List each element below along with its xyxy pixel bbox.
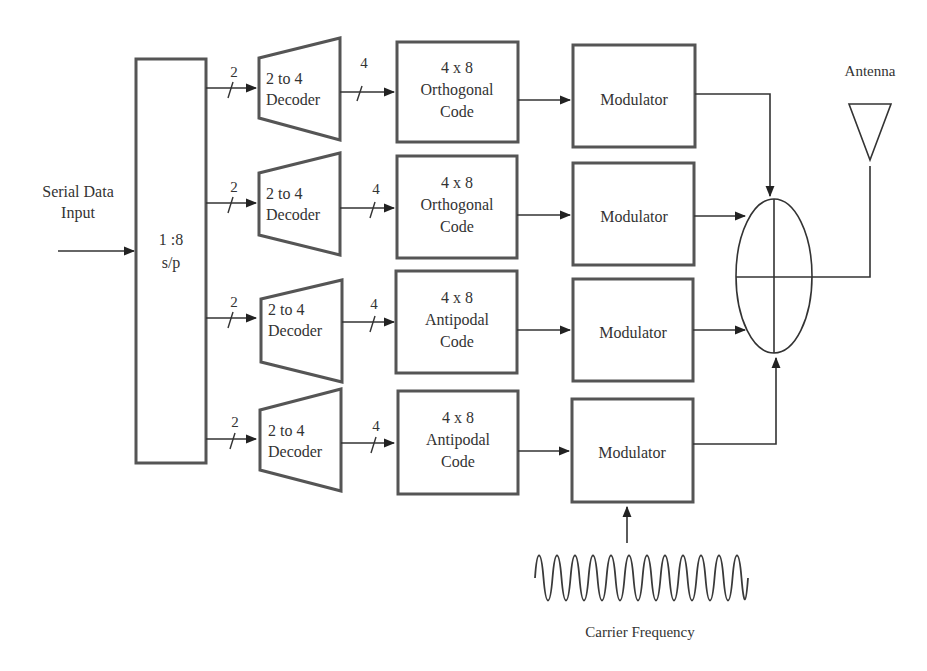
serial-data-input: Serial Data Input [42,183,134,251]
bus-width-out: 4 [372,418,380,434]
antenna-label: Antenna [845,63,896,79]
decoder-label-line1: 2 to 4 [266,70,302,87]
bus-width-in: 2 [230,294,238,310]
modulator-label: Modulator [598,444,666,461]
decoder-block [259,38,340,140]
bus-width-out: 4 [372,181,380,197]
antenna-icon [849,104,891,160]
summing-junction-icon [736,199,812,353]
decoder-label-line1: 2 to 4 [266,185,302,202]
decoder-label-line2: Decoder [268,443,323,460]
bus-width-in: 2 [230,64,238,80]
modulator-label: Modulator [599,324,667,341]
sp-label-line2: s/p [162,254,181,272]
code-label-line2: Antipodal [426,431,491,449]
code-label-line1: 4 x 8 [441,59,473,76]
bus-width-in: 2 [231,414,239,430]
carrier-label: Carrier Frequency [585,624,695,640]
bus-slash-icon [371,437,376,453]
combiner-to-antenna-line [812,166,870,277]
code-label-line1: 4 x 8 [441,174,473,191]
channel-row-2: 2 2 to 4 Decoder 4 4 x 8 Orthogonal Code… [206,153,745,265]
block-diagram: Serial Data Input 1 :8 s/p 2 2 to 4 Deco… [0,0,927,671]
bus-slash-icon [228,197,233,213]
code-label-line3: Code [440,103,474,120]
input-label-line2: Input [61,204,95,222]
code-label-line3: Code [440,218,474,235]
bus-slash-icon [357,86,362,101]
code-label-line1: 4 x 8 [441,289,473,306]
bus-width-out: 4 [370,296,378,312]
input-label-line1: Serial Data [42,183,114,200]
antenna: Antenna [812,63,896,277]
sine-wave-icon [535,556,748,601]
bus-slash-icon [370,202,375,218]
bus-slash-icon [228,82,233,98]
channel-row-3: 2 2 to 4 Decoder 4 4 x 8 Antipodal Code … [206,271,745,382]
modulator-to-combiner-line [693,358,776,444]
decoder-block [260,389,341,491]
bus-slash-icon [230,433,235,449]
bus-slash-icon [228,312,233,328]
decoder-label-line2: Decoder [266,91,321,108]
decoder-label-line2: Decoder [268,322,323,339]
modulator-label: Modulator [600,91,668,108]
code-label-line1: 4 x 8 [442,409,474,426]
decoder-block [259,153,340,255]
bus-width-in: 2 [230,179,238,195]
code-label-line2: Orthogonal [421,81,494,99]
bus-slash-icon [370,316,375,332]
code-label-line3: Code [441,453,475,470]
code-label-line2: Antipodal [425,311,490,329]
modulator-label: Modulator [600,208,668,225]
decoder-label-line1: 2 to 4 [268,301,304,318]
decoder-label-line2: Decoder [266,206,321,223]
modulator-to-combiner-line [695,94,770,196]
code-label-line3: Code [440,333,474,350]
decoder-label-line1: 2 to 4 [268,422,304,439]
bus-width-out: 4 [360,55,368,71]
code-label-line2: Orthogonal [421,196,494,214]
serial-to-parallel-block: 1 :8 s/p [136,59,206,463]
carrier-frequency: Carrier Frequency [535,507,748,640]
sp-label-line1: 1 :8 [159,231,183,248]
